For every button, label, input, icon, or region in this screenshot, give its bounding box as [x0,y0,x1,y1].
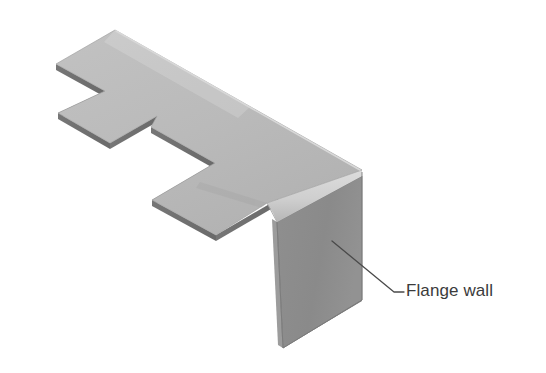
sheet-metal-part-illustration [0,0,546,373]
callout-label-flange-wall: Flange wall [406,281,493,301]
figure-root: Flange wall [0,0,546,373]
